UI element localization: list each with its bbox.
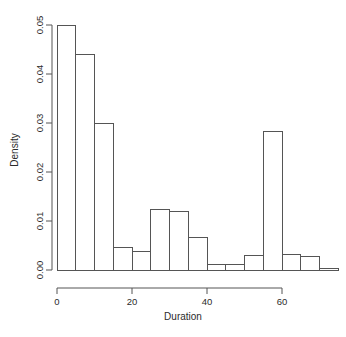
histogram-bar bbox=[170, 211, 189, 270]
x-axis-ticks bbox=[57, 288, 282, 294]
histogram-bar bbox=[57, 25, 76, 270]
histogram-bar bbox=[113, 248, 132, 270]
histogram-bar bbox=[320, 268, 339, 270]
chart-canvas: 0.000.010.020.030.040.05 0204060 Density… bbox=[0, 0, 346, 337]
histogram-bar bbox=[282, 254, 301, 270]
y-axis-tick-label: 0.02 bbox=[34, 163, 45, 182]
x-axis-title: Duration bbox=[164, 311, 202, 322]
y-axis-title: Density bbox=[9, 133, 20, 166]
histogram-bar bbox=[207, 265, 226, 270]
histogram-bar bbox=[76, 54, 95, 270]
y-axis-tick-label: 0.04 bbox=[34, 65, 45, 84]
x-axis-tick-label: 40 bbox=[202, 296, 213, 307]
histogram-bar bbox=[132, 252, 151, 270]
y-axis-tick-labels: 0.000.010.020.030.040.05 bbox=[34, 16, 45, 280]
histogram-bar bbox=[188, 237, 207, 270]
y-axis-tick-label: 0.05 bbox=[34, 16, 45, 35]
histogram-bar bbox=[226, 264, 245, 270]
histogram-bars bbox=[57, 25, 338, 270]
histogram-bar bbox=[301, 257, 320, 270]
histogram-bar bbox=[263, 131, 282, 270]
y-axis-ticks bbox=[46, 25, 52, 270]
y-axis-tick-label: 0.03 bbox=[34, 114, 45, 133]
y-axis-tick-label: 0.00 bbox=[34, 261, 45, 280]
histogram-bar bbox=[95, 123, 114, 270]
x-axis-tick-label: 0 bbox=[54, 296, 59, 307]
histogram-bar bbox=[245, 255, 264, 270]
x-axis-tick-label: 20 bbox=[127, 296, 138, 307]
histogram-bar bbox=[151, 209, 170, 270]
x-axis-tick-label: 60 bbox=[277, 296, 288, 307]
x-axis-tick-labels: 0204060 bbox=[54, 296, 287, 307]
histogram-chart: 0.000.010.020.030.040.05 0204060 Density… bbox=[0, 0, 346, 337]
y-axis-tick-label: 0.01 bbox=[34, 212, 45, 231]
